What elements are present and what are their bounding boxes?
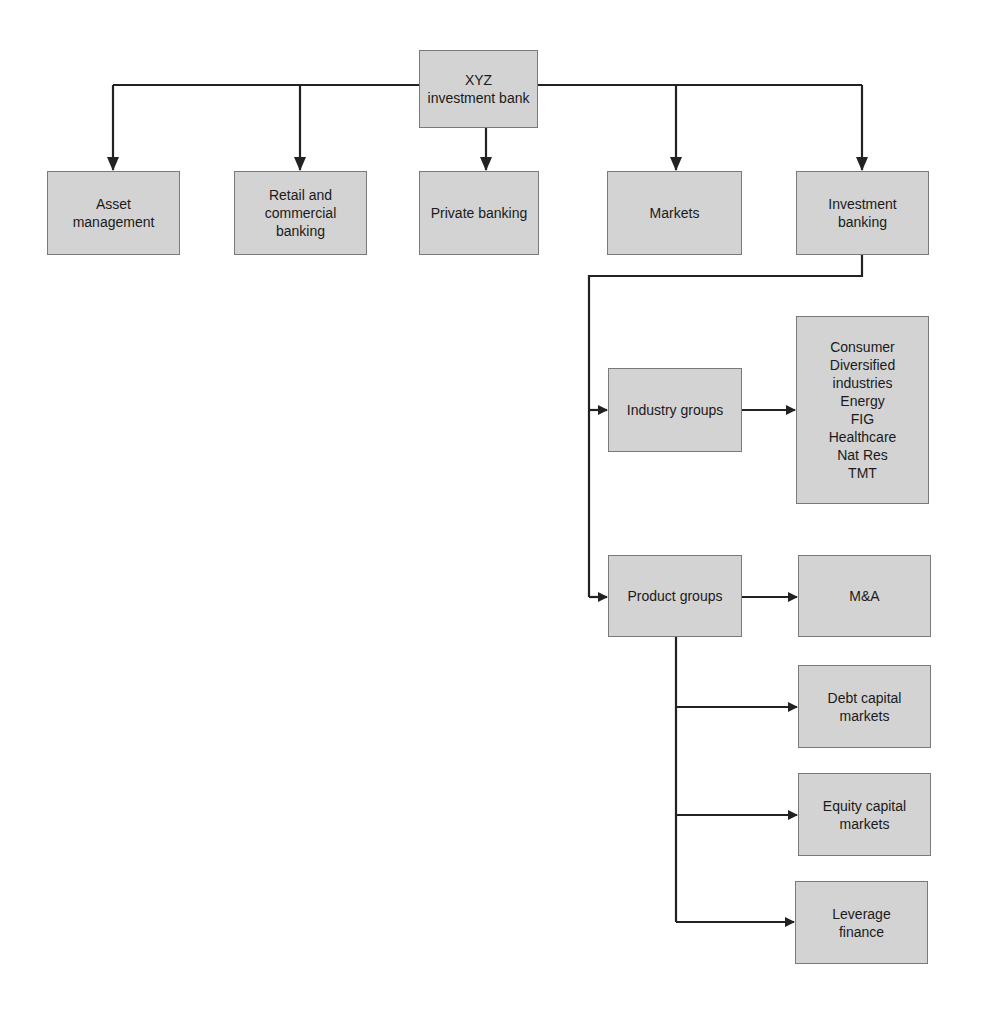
root-node-xyz-investment-bank: XYZ investment bank — [419, 50, 538, 128]
node-private-banking: Private banking — [419, 171, 539, 255]
node-product-groups: Product groups — [608, 555, 742, 637]
root-label: XYZ investment bank — [428, 71, 530, 107]
node-label: Product groups — [628, 587, 723, 605]
node-m-and-a: M&A — [798, 555, 931, 637]
node-retail-commercial-banking: Retail and commercial banking — [234, 171, 367, 255]
node-label: Asset management — [73, 195, 155, 231]
node-industry-groups: Industry groups — [608, 368, 742, 452]
sectors-list: Consumer Diversified industries Energy F… — [829, 338, 897, 482]
node-label: Private banking — [431, 204, 528, 222]
node-label: Debt capital markets — [828, 689, 902, 725]
node-debt-capital-markets: Debt capital markets — [798, 665, 931, 748]
node-investment-banking: Investment banking — [796, 171, 929, 255]
connector-lines — [0, 0, 985, 1011]
node-label: Retail and commercial banking — [265, 186, 337, 240]
node-label: Investment banking — [828, 195, 896, 231]
node-leverage-finance: Leverage finance — [795, 881, 928, 964]
node-label: M&A — [849, 587, 879, 605]
node-label: Markets — [650, 204, 700, 222]
node-label: Leverage finance — [832, 905, 890, 941]
node-label: Equity capital markets — [823, 797, 906, 833]
node-equity-capital-markets: Equity capital markets — [798, 773, 931, 856]
node-label: Industry groups — [627, 401, 724, 419]
node-asset-management: Asset management — [47, 171, 180, 255]
node-industry-sectors: Consumer Diversified industries Energy F… — [796, 316, 929, 504]
node-markets: Markets — [607, 171, 742, 255]
